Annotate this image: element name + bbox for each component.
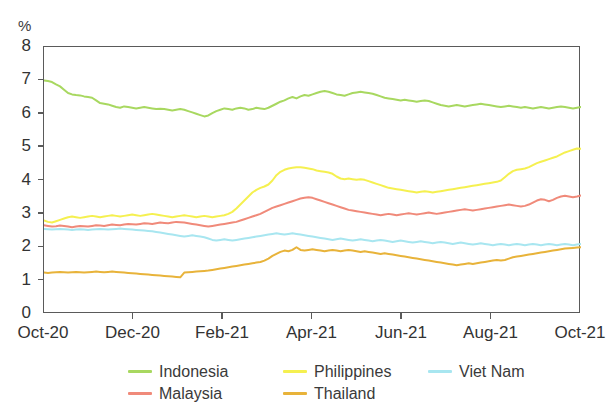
legend-color-swatch — [428, 370, 452, 373]
x-tick-mark — [311, 313, 313, 319]
x-tick-label: Oct-21 — [554, 324, 605, 342]
series-line-viet-nam — [44, 229, 581, 246]
legend-label: Viet Nam — [459, 363, 525, 380]
x-tick-label: Dec-20 — [105, 324, 160, 342]
legend-item-philippines[interactable]: Philippines — [283, 363, 391, 380]
x-tick-label: Aug-21 — [463, 324, 518, 342]
legend-item-thailand[interactable]: Thailand — [283, 385, 375, 402]
x-tick-mark — [132, 313, 134, 319]
legend-color-swatch — [128, 370, 152, 373]
legend-item-malaysia[interactable]: Malaysia — [128, 385, 222, 402]
y-tick-label: 6 — [22, 104, 31, 121]
x-tick-mark — [400, 313, 402, 319]
y-tick-label: 4 — [22, 171, 31, 188]
legend-item-viet-nam[interactable]: Viet Nam — [428, 363, 525, 380]
chart-legend: IndonesiaMalaysiaPhilippinesThailandViet… — [128, 363, 528, 406]
y-tick-label: 5 — [22, 137, 31, 154]
x-tick-label: Apr-21 — [286, 324, 337, 342]
legend-color-swatch — [283, 392, 307, 395]
x-axis: Oct-20Dec-20Feb-21Apr-21Jun-21Aug-21Oct-… — [0, 318, 597, 348]
legend-color-swatch — [128, 392, 152, 395]
legend-label: Malaysia — [159, 385, 222, 402]
legend-item-indonesia[interactable]: Indonesia — [128, 363, 228, 380]
series-line-indonesia — [44, 80, 581, 116]
y-tick-label: 2 — [22, 237, 31, 254]
y-tick-label: 8 — [22, 37, 31, 54]
legend-label: Philippines — [314, 363, 391, 380]
y-tick-label: 3 — [22, 204, 31, 221]
series-line-philippines — [44, 148, 581, 222]
y-tick-label: 1 — [22, 271, 31, 288]
y-tick-label: 7 — [22, 70, 31, 87]
legend-label: Indonesia — [159, 363, 228, 380]
plot-area — [43, 46, 580, 313]
series-lines — [44, 47, 581, 314]
x-tick-mark — [490, 313, 492, 319]
series-line-thailand — [44, 247, 581, 277]
x-tick-label: Feb-21 — [195, 324, 249, 342]
x-tick-mark — [221, 313, 223, 319]
series-line-malaysia — [44, 196, 581, 228]
legend-color-swatch — [283, 370, 307, 373]
legend-label: Thailand — [314, 385, 375, 402]
x-tick-label: Oct-20 — [17, 324, 68, 342]
x-tick-label: Jun-21 — [375, 324, 427, 342]
